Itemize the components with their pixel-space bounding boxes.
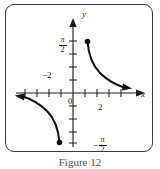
x-tick-label-pos2: 2 [98, 103, 103, 112]
curve-branch-lower-left [21, 96, 60, 143]
pi-over-2-fraction: π 2 [59, 36, 67, 54]
neg-pi-over-2-numerator: π [100, 136, 106, 144]
endpoint-dot-upper [85, 39, 91, 45]
y-tick-label-neg-pi-over-2: − π 2 [93, 136, 107, 152]
coordinate-plot [6, 5, 152, 151]
y-tick-label-pi-over-2: π 2 [58, 36, 67, 54]
endpoint-dot-lower [57, 140, 63, 146]
neg-pi-over-2-denominator: 2 [100, 146, 106, 152]
y-axis-arrowhead [69, 18, 76, 27]
x-axis-label: x [141, 90, 145, 99]
curve-branch-upper-right [88, 42, 127, 89]
figure-container: y x 0 −2 2 π 2 − π 2 Figure 12 [0, 0, 160, 169]
curve-arrowhead-left [15, 94, 25, 101]
plot-frame: y x 0 −2 2 π 2 − π 2 [5, 4, 153, 152]
neg-pi-over-2-fraction: π 2 [99, 136, 107, 152]
pi-over-2-denominator: 2 [60, 46, 66, 54]
pi-over-2-numerator: π [59, 36, 65, 44]
x-tick-label-neg2: −2 [42, 71, 52, 80]
curve-arrowhead-right [122, 84, 132, 91]
neg-pi-over-2-sign: − [93, 141, 98, 150]
origin-label: 0 [68, 97, 72, 106]
y-axis-label: y [82, 10, 86, 19]
figure-caption: Figure 12 [0, 156, 160, 169]
